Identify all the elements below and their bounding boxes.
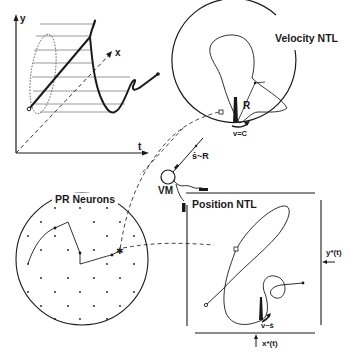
y-axis-label: y — [20, 13, 26, 24]
diagram-svg: y x t Velocity NTL R — [0, 0, 358, 358]
position-entry-node — [234, 247, 238, 251]
vm-axon-to-position-left — [176, 184, 184, 201]
radius-label: R — [243, 100, 251, 111]
x-input-arrowhead-icon — [254, 334, 258, 339]
vm-soma — [161, 170, 175, 184]
vm-axon-to-position — [174, 181, 203, 189]
diagram-canvas: y x t Velocity NTL R — [0, 0, 358, 358]
position-ntl-panel: Position NTL v~ṡ y*(t) x*(t) — [186, 193, 342, 348]
vm-synapse-position-top — [199, 188, 208, 191]
t-axis-label: t — [138, 141, 142, 152]
position-end-point — [302, 282, 305, 285]
pr-neurons-panel: PR Neurons ✱ — [16, 193, 214, 325]
position-velocity-label: v~ṡ — [261, 321, 274, 330]
pr-active-neuron-star-icon: ✱ — [116, 246, 124, 256]
y-input-label: y*(t) — [326, 248, 342, 257]
pr-activation-path — [28, 222, 121, 264]
vm-axon-dot — [195, 145, 197, 147]
trajectory-end-point — [156, 72, 160, 76]
x-input-label: x*(t) — [262, 339, 278, 348]
trajectory-diagonal — [29, 37, 90, 109]
velocity-ntl-panel: Velocity NTL R v=C — [172, 0, 339, 138]
position-trajectory-upper — [206, 206, 289, 305]
x-axis-arrow-icon — [106, 51, 112, 58]
position-spike — [259, 297, 263, 320]
vm-label: VM — [158, 185, 173, 196]
y-axis-arrow-icon — [14, 14, 19, 21]
y-input-arrowhead-icon — [322, 260, 327, 264]
position-ntl-title: Position NTL — [192, 198, 257, 210]
velocity-constant-label: v=C — [233, 129, 248, 138]
velocity-spike — [233, 97, 238, 123]
radius-center — [254, 82, 256, 84]
trajectory-3d-panel: y x t — [14, 13, 160, 156]
dashed-connector-velocity — [120, 112, 219, 250]
velocity-entry-node — [219, 110, 223, 114]
projection-ellipse — [26, 33, 61, 116]
projection-lines — [32, 24, 130, 112]
velocity-ntl-title: Velocity NTL — [275, 32, 339, 44]
trajectory-start-point — [27, 107, 31, 111]
vm-synapse-position-left — [182, 203, 186, 212]
pr-path-node — [79, 252, 82, 255]
pr-path-node — [111, 254, 114, 257]
pr-path-node — [54, 227, 57, 230]
position-start-point — [204, 303, 207, 306]
t-axis-arrow-icon — [142, 151, 149, 156]
vm-connection-label: ṡ~R — [192, 151, 209, 161]
trajectory-spiral — [90, 20, 158, 112]
dashed-connector-position — [123, 243, 214, 248]
pr-neurons-title: PR Neurons — [55, 193, 115, 205]
position-trajectory-lower — [224, 250, 303, 324]
x-axis-label: x — [115, 47, 121, 58]
